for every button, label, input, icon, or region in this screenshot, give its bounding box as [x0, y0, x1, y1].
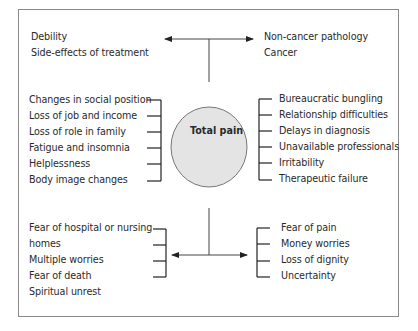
label-item: Body image changes — [29, 172, 128, 188]
center-label: Total pain — [190, 125, 243, 136]
label-item: Helplessness — [29, 156, 90, 172]
label-item: Irritability — [279, 155, 324, 171]
label-item: Money worries — [281, 236, 350, 252]
label-item: Debility — [31, 29, 67, 45]
label-item: Loss of dignity — [281, 252, 349, 268]
label-item: Cancer — [264, 45, 297, 61]
label-item: Bureaucratic bungling — [279, 91, 383, 107]
label-item: Fear of death — [29, 268, 91, 284]
label-item: Spiritual unrest — [29, 284, 101, 300]
label-item: Delays in diagnosis — [279, 123, 370, 139]
label-item: Multiple worries — [29, 252, 104, 268]
label-item: homes — [29, 236, 61, 252]
label-item: Fear of hospital or nursing — [29, 220, 152, 236]
label-item: Loss of role in family — [29, 124, 126, 140]
label-item: Non-cancer pathology — [264, 29, 368, 45]
label-item: Uncertainty — [281, 268, 336, 284]
label-item: Changes in social position — [29, 92, 151, 108]
label-item: Relationship difficulties — [279, 107, 388, 123]
label-item: Therapeutic failure — [279, 171, 368, 187]
label-item: Side-effects of treatment — [31, 45, 149, 61]
label-item: Fatigue and insomnia — [29, 140, 130, 156]
label-item: Unavailable professionals — [279, 139, 399, 155]
label-item: Loss of job and income — [29, 108, 137, 124]
label-item: Fear of pain — [281, 220, 337, 236]
total-pain-circle — [171, 107, 247, 187]
